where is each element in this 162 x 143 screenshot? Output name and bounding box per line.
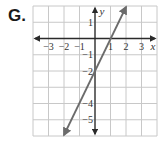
y-tick-label: −4: [82, 98, 93, 109]
y-tick-label: −5: [82, 114, 93, 125]
x-tick-label: −3: [43, 41, 54, 52]
x-axis-label: x: [150, 40, 156, 52]
y-axis-label: y: [99, 5, 105, 17]
x-tick-label: 2: [124, 41, 129, 52]
coordinate-plane: −3−2−11231−1−2−4−5xy: [0, 0, 162, 143]
y-tick-label: −2: [82, 66, 93, 77]
tick-labels: −3−2−11231−1−2−4−5xy: [43, 5, 155, 125]
y-tick-label: 1: [88, 17, 93, 28]
x-tick-label: −2: [59, 41, 70, 52]
y-tick-label: −1: [82, 49, 93, 60]
x-tick-label: 3: [139, 41, 144, 52]
